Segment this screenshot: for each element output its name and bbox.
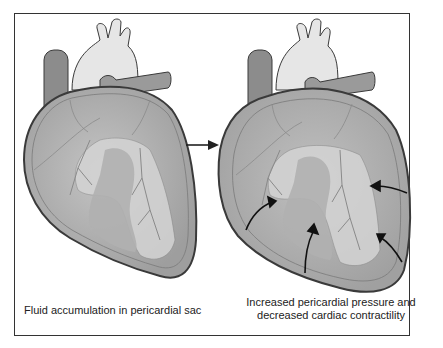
- caption-left: Fluid accumulation in pericardial sac: [24, 304, 204, 317]
- left-heart: [24, 19, 196, 278]
- caption-right-line2: decreased cardiac contractility: [236, 309, 426, 322]
- right-heart: [219, 19, 411, 292]
- caption-right-line1: Increased pericardial pressure and: [236, 296, 426, 309]
- caption-right: Increased pericardial pressure and decre…: [236, 296, 426, 322]
- right-arrow-icon: [186, 140, 219, 150]
